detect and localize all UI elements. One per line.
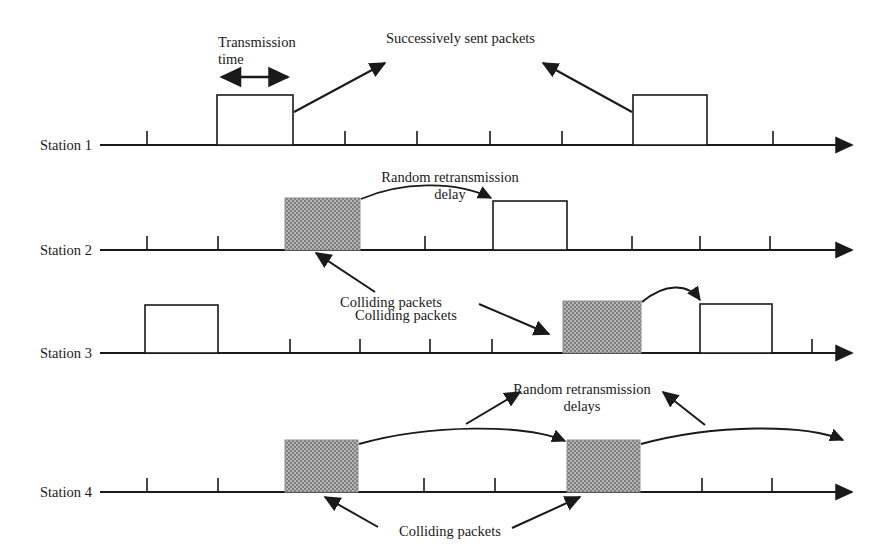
station2-retransmit-packet[interactable]: [493, 201, 567, 250]
station3-packet-1[interactable]: [145, 305, 218, 353]
station4-retransmission-delay-curve-1: [359, 429, 565, 444]
station4-collision-packet-1[interactable]: [285, 440, 358, 492]
station2-collision-packet[interactable]: [285, 198, 360, 250]
station-3-timeline: [100, 287, 852, 353]
successively-sent-packets-label: Successively sent packets: [386, 30, 535, 47]
station4-collision-packet-2[interactable]: [567, 440, 640, 492]
station3-colliding-arrow: [479, 304, 549, 334]
station4-retransmission-delay-curve-2: [641, 428, 843, 444]
diagram-canvas: [0, 0, 883, 553]
station2-colliding-arrow: [316, 253, 375, 292]
station4-colliding-arrow-1: [325, 497, 378, 527]
station-label-4: Station 4: [22, 484, 92, 501]
successively-sent-arrow-left: [294, 63, 385, 112]
timing-diagram: Station 1 Station 2 Station 3 Station 4 …: [0, 0, 883, 553]
successively-sent-arrow-right: [543, 63, 632, 112]
random-retransmission-delay-label: Random retransmission delay: [355, 169, 545, 203]
station4-colliding-arrow-2: [512, 497, 580, 528]
random-retransmission-delays-label: Random retransmission delays: [487, 381, 677, 415]
colliding-packets-label-station3: Colliding packets: [355, 307, 457, 324]
station-4-timeline: [100, 392, 852, 528]
station3-collision-packet[interactable]: [563, 301, 641, 353]
station1-packet-1[interactable]: [217, 95, 293, 145]
station-label-3: Station 3: [22, 345, 92, 362]
colliding-packets-label-station4: Colliding packets: [399, 523, 501, 540]
station-label-2: Station 2: [22, 242, 92, 259]
station3-retransmission-delay-curve: [642, 287, 700, 302]
station1-packet-2[interactable]: [633, 95, 707, 145]
transmission-time-label: Transmission time: [218, 34, 296, 68]
station3-retransmit-packet[interactable]: [700, 304, 772, 353]
station-label-1: Station 1: [22, 137, 92, 154]
station-1-timeline: [100, 63, 852, 145]
